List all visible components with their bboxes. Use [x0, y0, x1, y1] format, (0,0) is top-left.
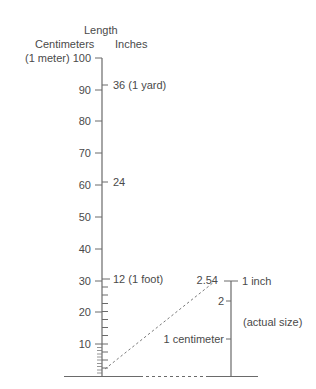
actual-size-cm-label: 1 centimeter	[163, 333, 224, 345]
cm-label-80: 80	[79, 115, 91, 127]
actual-size-value-2: 2	[218, 295, 224, 307]
inch-header: Inches	[115, 38, 147, 50]
cm-label-20: 20	[79, 306, 91, 318]
cm-label-70: 70	[79, 147, 91, 159]
cm-label-10: 10	[79, 338, 91, 350]
actual-size-note: (actual size)	[243, 316, 302, 328]
diagram-title: Length	[84, 24, 118, 36]
inch-ticks	[102, 85, 110, 368]
inch-label-36: 36 (1 yard)	[113, 79, 166, 91]
cm-label-50: 50	[79, 211, 91, 223]
cm-label-90: 90	[79, 84, 91, 96]
actual-size-value-2-54: 2.54	[197, 274, 218, 286]
cm-label-100: (1 meter) 100	[25, 52, 91, 64]
cm-major-ticks	[95, 58, 102, 344]
inch-label-12: 12 (1 foot)	[113, 273, 163, 285]
cm-minor-ticks	[97, 348, 102, 374]
cm-label-60: 60	[79, 179, 91, 191]
cm-label-30: 30	[79, 275, 91, 287]
cm-label-40: 40	[79, 243, 91, 255]
cm-header: Centimeters	[35, 38, 94, 50]
magnify-connector	[105, 282, 214, 369]
inch-label-24: 24	[113, 176, 125, 188]
actual-size-inch-label: 1 inch	[242, 275, 271, 287]
